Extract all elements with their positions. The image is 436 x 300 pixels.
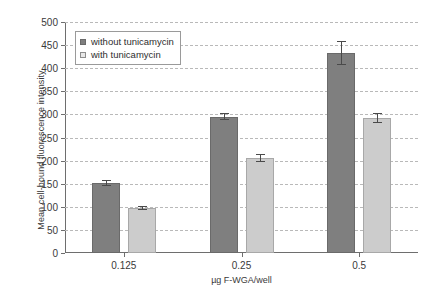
x-tick-mark	[359, 253, 360, 257]
legend-item-with-tunicamycin: with tunicamycin	[80, 48, 174, 61]
gridline	[65, 114, 418, 115]
y-tick-label: 400	[41, 63, 58, 74]
y-tick-mark	[61, 207, 65, 208]
y-tick-mark	[61, 91, 65, 92]
error-bar-cap	[138, 206, 147, 207]
y-tick-label: 50	[47, 224, 58, 235]
error-bar-cap	[220, 119, 229, 120]
legend-swatch-icon	[80, 52, 86, 58]
x-tick-mark	[242, 253, 243, 257]
y-tick-mark	[61, 138, 65, 139]
bar	[92, 183, 120, 253]
x-tick-label: 0.125	[111, 260, 136, 271]
error-bar-stem	[341, 41, 342, 65]
y-tick-mark	[61, 184, 65, 185]
y-tick-mark	[61, 22, 65, 23]
legend-item-label: with tunicamycin	[91, 49, 161, 60]
gridline	[65, 22, 418, 23]
x-tick-label: 0.5	[352, 260, 366, 271]
error-bar-cap	[337, 64, 346, 65]
y-tick-label: 150	[41, 178, 58, 189]
error-bar-cap	[102, 180, 111, 181]
error-bar-cap	[337, 41, 346, 42]
y-tick-mark	[61, 68, 65, 69]
error-bar-cap	[373, 113, 382, 114]
error-bar-cap	[256, 154, 265, 155]
y-tick-label: 0	[52, 248, 58, 259]
x-tick-mark	[124, 253, 125, 257]
error-bar-cap	[373, 122, 382, 123]
y-tick-label: 500	[41, 17, 58, 28]
y-tick-label: 350	[41, 86, 58, 97]
legend-item-without-tunicamycin: without tunicamycin	[80, 35, 174, 48]
gridline	[65, 91, 418, 92]
y-tick-mark	[61, 253, 65, 254]
gridline	[65, 68, 418, 69]
y-tick-mark	[61, 114, 65, 115]
bar-chart: Mean cell-bound fluorescence intensity 0…	[0, 0, 436, 300]
error-bar-cap	[256, 161, 265, 162]
y-tick-label: 450	[41, 40, 58, 51]
legend-swatch-icon	[80, 39, 86, 45]
bar	[363, 118, 391, 253]
y-tick-label: 200	[41, 155, 58, 166]
bar	[246, 158, 274, 253]
y-tick-label: 250	[41, 132, 58, 143]
y-tick-mark	[61, 230, 65, 231]
error-bar-cap	[102, 185, 111, 186]
y-tick-label: 100	[41, 201, 58, 212]
legend-item-label: without tunicamycin	[91, 36, 174, 47]
legend: without tunicamycin with tunicamycin	[75, 31, 181, 65]
x-tick-label: 0.25	[232, 260, 251, 271]
error-bar-cap	[220, 113, 229, 114]
bar	[327, 53, 355, 253]
bar	[128, 208, 156, 253]
bar	[210, 117, 238, 253]
x-axis-title: µg F-WGA/well	[65, 275, 418, 285]
y-tick-label: 300	[41, 109, 58, 120]
y-tick-mark	[61, 45, 65, 46]
error-bar-cap	[138, 209, 147, 210]
y-tick-mark	[61, 161, 65, 162]
